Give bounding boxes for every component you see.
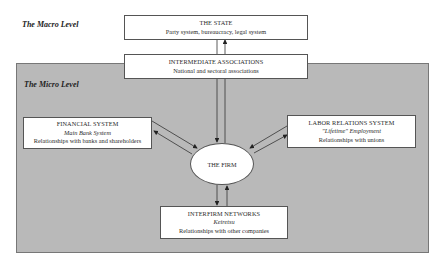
firm-ellipse: THE FIRM (190, 143, 254, 185)
interfirm-networks-box: INTERFIRM NETWORKS Keiretsu Relationship… (160, 206, 288, 239)
labor-italic: "Lifetime" Employment (288, 127, 415, 136)
state-title: THE STATE (125, 19, 307, 28)
financial-title: FINANCIAL SYSTEM (24, 120, 151, 129)
intermediate-title: INTERMEDIATE ASSOCIATIONS (125, 58, 307, 67)
state-box: THE STATE Party system, bureaucracy, leg… (124, 15, 308, 40)
intermediate-associations-box: INTERMEDIATE ASSOCIATIONS National and s… (124, 54, 308, 79)
interfirm-title: INTERFIRM NETWORKS (161, 210, 287, 219)
financial-detail: Relationships with banks and shareholder… (24, 137, 151, 146)
labor-relations-box: LABOR RELATIONS SYSTEM "Lifetime" Employ… (287, 115, 416, 148)
interfirm-italic: Keiretsu (161, 218, 287, 227)
labor-detail: Relationships with unions (288, 136, 415, 145)
state-subtitle: Party system, bureaucracy, legal system (125, 28, 307, 37)
labor-title: LABOR RELATIONS SYSTEM (288, 119, 415, 128)
financial-italic: Main Bank System (24, 129, 151, 138)
firm-label: THE FIRM (207, 161, 236, 168)
intermediate-subtitle: National and sectoral associations (125, 67, 307, 76)
interfirm-detail: Relationships with other companies (161, 227, 287, 236)
financial-system-box: FINANCIAL SYSTEM Main Bank System Relati… (23, 117, 152, 149)
